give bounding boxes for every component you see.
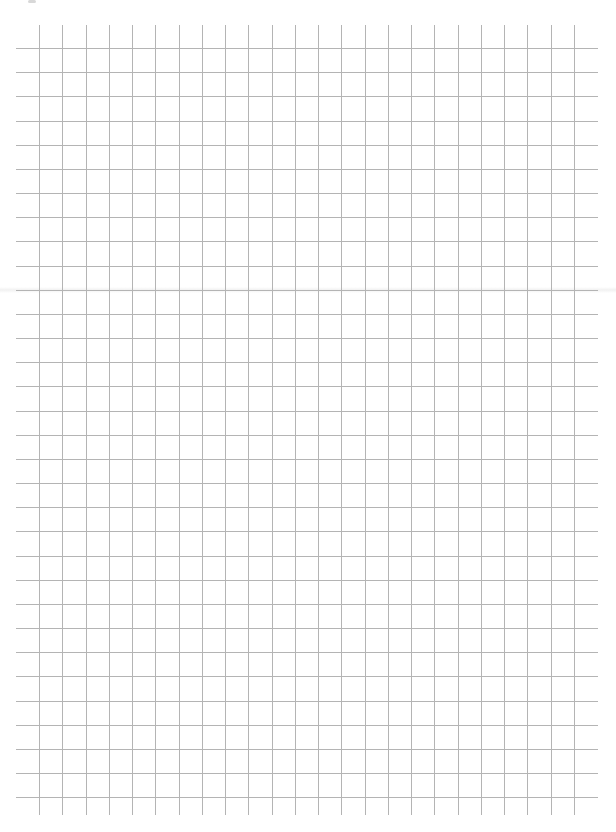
grid-horizontal-line (16, 121, 598, 122)
grid-horizontal-line (16, 193, 598, 194)
grid-horizontal-line (16, 411, 598, 412)
grid-horizontal-line (16, 386, 598, 387)
grid-horizontal-line (16, 725, 598, 726)
grid-horizontal-line (16, 483, 598, 484)
grid-vertical-line (225, 25, 226, 815)
grid-horizontal-line (16, 507, 598, 508)
grid-vertical-line (388, 25, 389, 815)
grid-horizontal-line (16, 217, 598, 218)
grid-horizontal-line (16, 314, 598, 315)
grid-vertical-line (272, 25, 273, 815)
grid-horizontal-line (16, 145, 598, 146)
grid-horizontal-line (16, 266, 598, 267)
grid-horizontal-line (16, 701, 598, 702)
grid-horizontal-line (16, 48, 598, 49)
grid (0, 0, 616, 832)
grid-horizontal-line (16, 72, 598, 73)
grid-vertical-line (551, 25, 552, 815)
grid-horizontal-line (16, 96, 598, 97)
grid-vertical-line (179, 25, 180, 815)
grid-vertical-line (155, 25, 156, 815)
grid-vertical-line (458, 25, 459, 815)
grid-horizontal-line (16, 797, 598, 798)
grid-horizontal-line (16, 435, 598, 436)
grid-horizontal-line (16, 604, 598, 605)
grid-horizontal-line (16, 290, 598, 291)
grid-horizontal-line (16, 169, 598, 170)
grid-vertical-line (132, 25, 133, 815)
grid-vertical-line (411, 25, 412, 815)
grid-horizontal-line (16, 338, 598, 339)
grid-vertical-line (434, 25, 435, 815)
grid-horizontal-line (16, 241, 598, 242)
graph-paper-page (0, 0, 616, 832)
grid-vertical-line (39, 25, 40, 815)
grid-vertical-line (318, 25, 319, 815)
grid-horizontal-line (16, 362, 598, 363)
grid-horizontal-line (16, 580, 598, 581)
grid-vertical-line (574, 25, 575, 815)
grid-vertical-line (295, 25, 296, 815)
grid-horizontal-line (16, 531, 598, 532)
grid-horizontal-line (16, 459, 598, 460)
grid-vertical-line (341, 25, 342, 815)
grid-vertical-line (202, 25, 203, 815)
grid-horizontal-line (16, 556, 598, 557)
grid-horizontal-line (16, 652, 598, 653)
grid-horizontal-line (16, 628, 598, 629)
grid-horizontal-line (16, 749, 598, 750)
grid-horizontal-line (16, 676, 598, 677)
grid-vertical-line (86, 25, 87, 815)
grid-vertical-line (62, 25, 63, 815)
grid-vertical-line (365, 25, 366, 815)
grid-vertical-line (527, 25, 528, 815)
grid-vertical-line (109, 25, 110, 815)
grid-vertical-line (248, 25, 249, 815)
grid-vertical-line (481, 25, 482, 815)
grid-horizontal-line (16, 773, 598, 774)
grid-vertical-line (504, 25, 505, 815)
